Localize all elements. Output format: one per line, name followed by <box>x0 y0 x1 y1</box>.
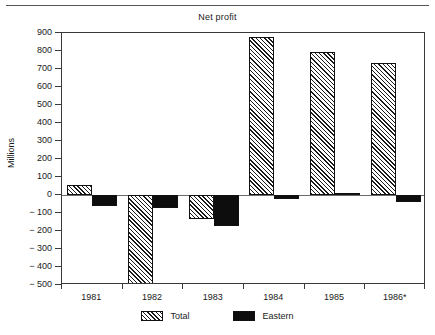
y-tick-label: − 200 <box>29 225 52 235</box>
bar-total-1985 <box>310 52 335 195</box>
x-tick-mark <box>424 284 425 289</box>
legend-label: Total <box>170 311 189 321</box>
x-tick-label-1982: 1982 <box>142 292 162 302</box>
y-tick-label: 100 <box>37 171 52 181</box>
x-tick-mark <box>304 284 305 289</box>
legend-swatch-eastern <box>233 311 255 321</box>
y-tick-label: 200 <box>37 153 52 163</box>
x-tick-label-1985: 1985 <box>324 292 344 302</box>
bar-total-1984 <box>249 37 274 195</box>
x-axis-ticks: 198119821983198419851986* <box>61 284 425 310</box>
chart-legend: TotalEastern <box>0 311 435 321</box>
bar-total-1986 <box>371 63 396 195</box>
y-tick-label: 500 <box>37 99 52 109</box>
x-tick-mark <box>61 284 62 289</box>
bar-total-1982 <box>128 195 153 284</box>
chart-title: Net profit <box>0 12 435 22</box>
legend-swatch-total <box>141 311 163 321</box>
bar-eastern-1982 <box>153 195 178 208</box>
bar-eastern-1984 <box>274 195 299 199</box>
x-tick-label-1981: 1981 <box>81 292 101 302</box>
plot-area <box>61 32 425 284</box>
legend-label: Eastern <box>262 311 293 321</box>
y-tick-label: 700 <box>37 63 52 73</box>
y-tick-label: − 300 <box>29 243 52 253</box>
y-tick-label: 900 <box>37 27 52 37</box>
x-tick-label-1984: 1984 <box>263 292 283 302</box>
x-tick-mark <box>364 284 365 289</box>
y-axis-ticks: 9008007006005004003002001000− 100− 200− … <box>0 32 61 284</box>
legend-entry-total: Total <box>141 311 189 321</box>
bar-eastern-1985 <box>335 193 360 195</box>
bar-total-1981 <box>67 185 92 195</box>
y-tick-label: − 500 <box>29 279 52 289</box>
y-tick-label: 800 <box>37 45 52 55</box>
y-tick-label: 300 <box>37 135 52 145</box>
y-tick-label: − 100 <box>29 207 52 217</box>
x-tick-mark <box>243 284 244 289</box>
y-tick-label: 400 <box>37 117 52 127</box>
x-tick-mark <box>182 284 183 289</box>
legend-entry-eastern: Eastern <box>233 311 293 321</box>
y-tick-label: 600 <box>37 81 52 91</box>
top-horizontal-rule <box>6 5 429 6</box>
y-tick-label: 0 <box>47 189 52 199</box>
y-tick-label: − 400 <box>29 261 52 271</box>
x-tick-label-1986: 1986* <box>383 292 407 302</box>
bar-eastern-1986 <box>396 195 421 202</box>
bar-total-1983 <box>189 195 214 219</box>
bar-eastern-1983 <box>214 195 239 226</box>
x-tick-mark <box>122 284 123 289</box>
x-tick-label-1983: 1983 <box>203 292 223 302</box>
bar-eastern-1981 <box>92 195 117 206</box>
